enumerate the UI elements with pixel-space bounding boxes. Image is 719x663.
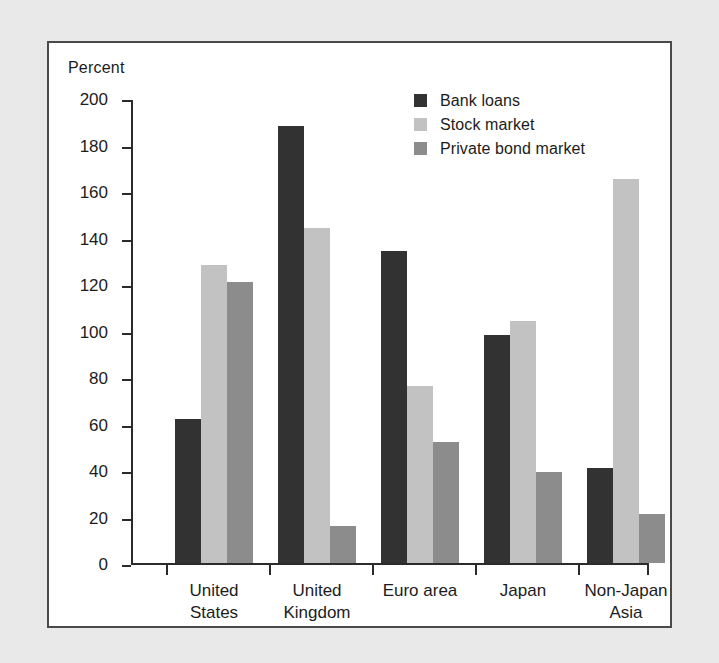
y-tick-100: 100 (122, 333, 131, 335)
bar (407, 386, 433, 563)
bar (330, 526, 356, 563)
x-tick (269, 565, 271, 575)
x-axis-label: United Kingdom (257, 580, 377, 624)
y-tick-160: 160 (122, 193, 131, 195)
figure-frame: Percent Bank loans Stock market Private … (47, 41, 672, 628)
y-tick-0: 0 (122, 565, 131, 567)
bar (227, 282, 253, 563)
bar (510, 321, 536, 563)
y-tick-label-120: 120 (48, 276, 108, 296)
y-tick-20: 20 (122, 519, 131, 521)
y-tick-40: 40 (122, 472, 131, 474)
bar-chart: Percent Bank loans Stock market Private … (49, 43, 670, 626)
y-axis-line (131, 100, 133, 565)
plot-area: 200180160140120100806040200 United State… (131, 100, 649, 565)
y-tick-label-60: 60 (48, 416, 108, 436)
bar (433, 442, 459, 563)
y-tick-label-40: 40 (48, 462, 108, 482)
bar (484, 335, 510, 563)
y-tick-200: 200 (122, 100, 131, 102)
y-tick-120: 120 (122, 286, 131, 288)
y-tick-label-160: 160 (48, 183, 108, 203)
y-tick-label-80: 80 (48, 369, 108, 389)
y-tick-140: 140 (122, 240, 131, 242)
bar (278, 126, 304, 563)
bar (201, 265, 227, 563)
x-tick (475, 565, 477, 575)
x-axis-label: Japan (463, 580, 583, 602)
bar (381, 251, 407, 563)
y-tick-label-0: 0 (48, 555, 108, 575)
x-axis-label: Non-Japan Asia (566, 580, 686, 624)
x-axis-label: United States (154, 580, 274, 624)
y-tick-label-20: 20 (48, 509, 108, 529)
bar (304, 228, 330, 563)
bar (175, 419, 201, 563)
y-tick-label-140: 140 (48, 230, 108, 250)
y-tick-label-100: 100 (48, 323, 108, 343)
x-axis-line (131, 563, 649, 565)
bar (536, 472, 562, 563)
y-tick-label-200: 200 (48, 90, 108, 110)
y-tick-80: 80 (122, 379, 131, 381)
y-tick-60: 60 (122, 426, 131, 428)
y-axis-title: Percent (68, 59, 125, 77)
bar (639, 514, 665, 563)
x-tick (647, 565, 649, 575)
y-tick-label-180: 180 (48, 137, 108, 157)
bar (587, 468, 613, 563)
y-tick-180: 180 (122, 147, 131, 149)
x-tick (578, 565, 580, 575)
bar (613, 179, 639, 563)
x-tick (166, 565, 168, 575)
x-tick (372, 565, 374, 575)
x-axis-label: Euro area (360, 580, 480, 602)
